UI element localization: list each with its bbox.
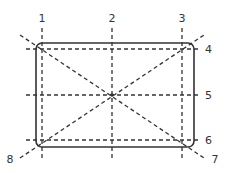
label-3: 3	[179, 12, 186, 25]
label-7: 7	[212, 153, 219, 166]
guide-diagram: 1 2 3 4 5 6 7 8	[0, 0, 232, 173]
center-point	[110, 93, 114, 97]
label-4: 4	[205, 43, 212, 56]
label-2: 2	[109, 12, 116, 25]
label-1: 1	[39, 12, 46, 25]
label-8: 8	[7, 153, 14, 166]
label-5: 5	[205, 89, 212, 102]
label-6: 6	[205, 134, 212, 147]
